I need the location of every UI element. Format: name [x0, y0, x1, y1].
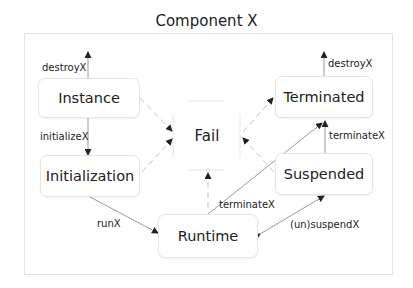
state-fail[interactable]: Fail [174, 114, 240, 158]
edge-instance-fail [140, 98, 172, 131]
label-destroy-right: destroyX [328, 58, 372, 69]
label-terminate-runtime: terminateX [219, 199, 275, 210]
edge-suspended-fail [243, 138, 274, 172]
state-runtime[interactable]: Runtime [158, 214, 258, 258]
label-initialize: initializeX [40, 131, 89, 142]
state-suspended[interactable]: Suspended [275, 153, 373, 195]
label-suspend: (un)suspendX [290, 219, 359, 230]
label-run: runX [97, 218, 121, 229]
edge-initialization-fail [142, 139, 172, 172]
state-terminated[interactable]: Terminated [275, 76, 373, 118]
state-instance[interactable]: Instance [38, 78, 140, 118]
state-initialization[interactable]: Initialization [40, 155, 140, 197]
edge-fail-terminated [243, 98, 273, 132]
label-destroy-left: destroyX [42, 62, 86, 73]
label-terminate-suspended: terminateX [329, 130, 385, 141]
